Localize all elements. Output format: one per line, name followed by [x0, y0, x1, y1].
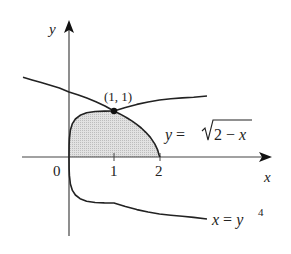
point-label: (1, 1)	[104, 89, 132, 104]
quartic-curve-label: x = y 4	[211, 206, 264, 229]
origin-label: 0	[53, 163, 61, 179]
intersection-point	[111, 108, 117, 114]
quartic-curve-lower	[69, 157, 207, 219]
sqrt-curve-label: y = 2 − x	[163, 120, 252, 144]
x-tick-label-1: 1	[110, 163, 118, 179]
region-diagram: y x 0 1 2 (1, 1) y = 2 − x x = y 4	[0, 0, 291, 254]
svg-text:2 − x: 2 − x	[214, 126, 246, 143]
y-axis-label: y	[47, 21, 56, 37]
svg-text:y =: y =	[163, 126, 185, 144]
x-tick-label-2: 2	[155, 163, 163, 179]
svg-text:4: 4	[258, 206, 264, 218]
svg-text:x = y: x = y	[211, 211, 244, 229]
x-axis-label: x	[263, 169, 271, 185]
